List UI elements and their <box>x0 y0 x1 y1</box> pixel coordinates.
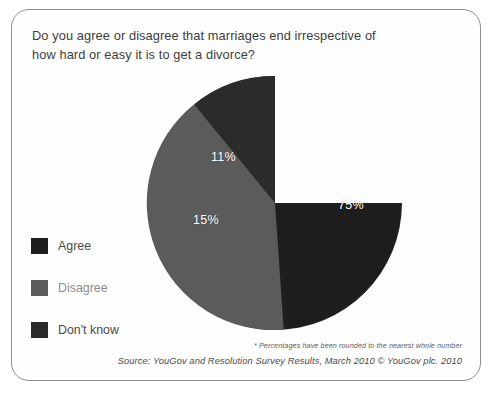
legend-swatch-agree <box>31 238 48 254</box>
pie-label-agree: 75% <box>338 198 364 212</box>
legend-label-dontknow: Don't know <box>58 322 119 338</box>
legend-swatch-dontknow <box>31 322 48 338</box>
footnote-source: Source: YouGov and Resolution Survey Res… <box>118 356 462 366</box>
legend-label-agree: Agree <box>58 238 91 254</box>
legend-swatch-disagree <box>31 280 48 296</box>
pie-chart: 75% 15% 11% Agree Disagree Don't know <box>12 10 481 381</box>
footnotes: * Percentages have been rounded to the n… <box>118 341 462 366</box>
legend-item-agree[interactable]: Agree <box>31 238 171 280</box>
legend-item-disagree[interactable]: Disagree <box>31 280 171 322</box>
footnote-rounding-note: * Percentages have been rounded to the n… <box>118 341 462 350</box>
legend-label-disagree: Disagree <box>58 280 108 296</box>
pie-svg <box>144 72 406 334</box>
chart-card: Do you agree or disagree that marriages … <box>11 9 481 381</box>
pie-label-dontknow: 11% <box>211 150 236 164</box>
pie-label-disagree: 15% <box>193 213 219 227</box>
